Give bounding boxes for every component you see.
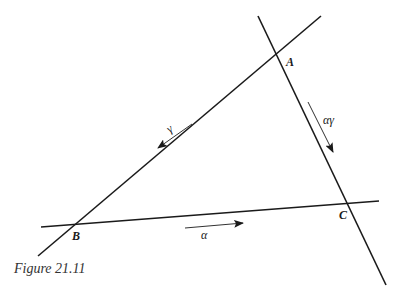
alpha-gamma-label: αγ (323, 113, 334, 127)
line-bc (41, 201, 379, 227)
line-ab (38, 16, 321, 256)
line-ac (258, 16, 386, 285)
point-label-b: B (71, 229, 80, 243)
alpha-arrow-icon (185, 223, 243, 228)
point-label-c: C (339, 208, 348, 222)
gamma-label: γ (163, 121, 175, 135)
figure-caption: Figure 21.11 (14, 261, 86, 277)
gamma-arrow-icon (158, 124, 192, 148)
alpha-label: α (201, 228, 208, 242)
alpha-gamma-arrow-icon (308, 102, 333, 152)
triangle-diagram: A B C γ αγ α (0, 0, 399, 301)
point-label-a: A (285, 55, 294, 69)
